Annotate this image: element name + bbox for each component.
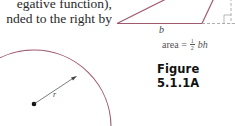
figure-caption: Figure 5.1.1A [157,62,235,90]
base-label: b [159,24,164,35]
radius-label: r [53,90,56,99]
arrowhead-icon [71,76,77,81]
circle-diagram [0,50,111,126]
fraction: 1 2 [190,38,195,51]
formula-prefix: area = [162,39,187,50]
triangle-diagram [117,0,235,24]
area-formula: area = 1 2 bh [162,38,208,51]
fraction-denominator: 2 [191,45,194,51]
formula-suffix: bh [198,39,208,50]
fraction-numerator: 1 [190,38,195,45]
